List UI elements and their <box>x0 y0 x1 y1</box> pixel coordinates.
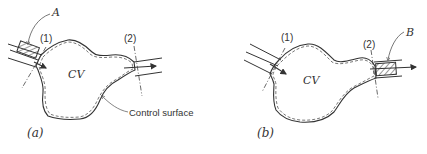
callout-a-label: A <box>51 6 60 19</box>
control-surface-leader <box>102 96 128 112</box>
control-surface-label: Control surface <box>129 107 193 118</box>
control-surface-dashed <box>273 46 374 120</box>
section-2-label: (2) <box>363 39 375 50</box>
panel-a: A (1) (2) CV Control surface (a) <box>8 6 193 140</box>
panel-a-caption: (a) <box>27 126 44 140</box>
callout-b-leader <box>388 32 404 60</box>
panel-b: B (1) (2) CV (b) <box>244 26 416 140</box>
control-volume-boundary <box>36 40 135 119</box>
panel-b-caption: (b) <box>257 126 274 140</box>
outlet-flow-arrow <box>124 66 156 68</box>
section-2-label: (2) <box>124 33 136 44</box>
section-1-label: (1) <box>40 33 52 44</box>
section-1-label: (1) <box>281 32 293 43</box>
cv-label: CV <box>303 74 320 87</box>
figure-canvas: A (1) (2) CV Control surface (a) B (1) (… <box>0 0 427 154</box>
section-2-line <box>134 46 142 96</box>
cv-label: CV <box>68 68 85 81</box>
callout-b-label: B <box>405 26 414 39</box>
